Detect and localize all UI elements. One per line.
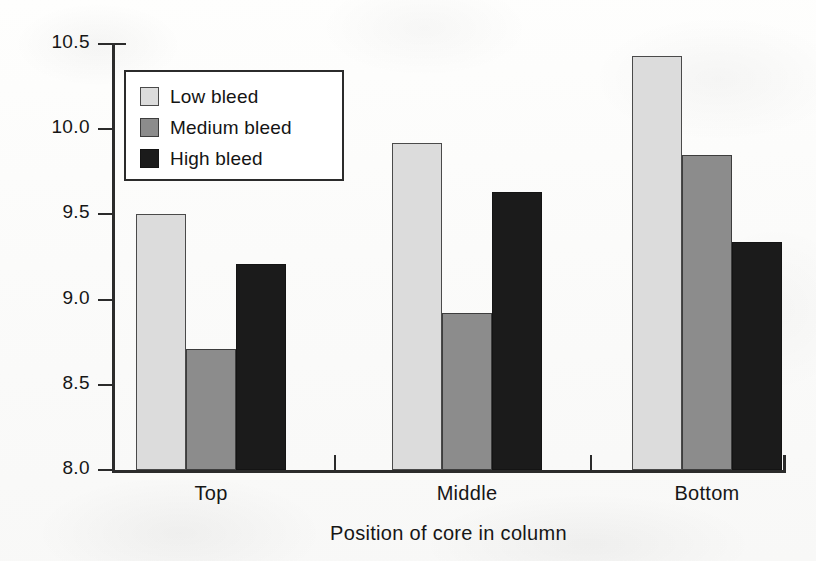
legend-swatch-low-bleed bbox=[140, 87, 159, 106]
bar-bottom-medium-bleed bbox=[682, 155, 732, 470]
legend-label-high-bleed: High bleed bbox=[170, 148, 263, 170]
bar-top-high-bleed bbox=[236, 264, 286, 470]
legend-swatch-high-bleed bbox=[140, 149, 159, 168]
bar-middle-medium-bleed bbox=[442, 313, 492, 470]
x-axis-label-middle: Middle bbox=[387, 482, 547, 505]
legend-label-low-bleed: Low bleed bbox=[170, 86, 258, 108]
bar-top-medium-bleed bbox=[186, 349, 236, 470]
legend-swatch-medium-bleed bbox=[140, 118, 159, 137]
y-axis-tick-label: 8.0 bbox=[36, 457, 90, 479]
chart-legend: Low bleed Medium bleed High bleed bbox=[124, 70, 344, 181]
y-axis-tick bbox=[98, 384, 113, 386]
y-axis-tick bbox=[98, 128, 113, 130]
bar-middle-high-bleed bbox=[492, 192, 542, 470]
y-axis-tick-label: 10.5 bbox=[36, 31, 90, 53]
y-axis-tick bbox=[98, 469, 113, 471]
y-axis-tick bbox=[98, 213, 113, 215]
bar-top-low-bleed bbox=[136, 214, 186, 470]
bar-bottom-low-bleed bbox=[632, 56, 682, 470]
legend-item-low-bleed: Low bleed bbox=[140, 81, 342, 112]
y-axis-tick-label: 9.5 bbox=[36, 201, 90, 223]
x-axis-line bbox=[112, 470, 785, 473]
bar-bottom-high-bleed bbox=[732, 242, 782, 470]
x-axis-label-top: Top bbox=[131, 482, 291, 505]
plot-wrapper: OPI (Log) 8.08.59.09.510.010.5 TopMiddle… bbox=[0, 0, 816, 561]
x-axis-label-bottom: Bottom bbox=[627, 482, 787, 505]
legend-label-medium-bleed: Medium bleed bbox=[170, 117, 292, 139]
y-axis-tick bbox=[98, 43, 113, 45]
y-axis-tick bbox=[98, 299, 113, 301]
x-axis-title: Position of core in column bbox=[112, 522, 785, 545]
chart-page: OPI (Log) 8.08.59.09.510.010.5 TopMiddle… bbox=[0, 0, 816, 561]
legend-item-high-bleed: High bleed bbox=[140, 143, 342, 174]
y-axis-tick-label: 8.5 bbox=[36, 372, 90, 394]
y-axis-tick-label: 9.0 bbox=[36, 287, 90, 309]
legend-item-medium-bleed: Medium bleed bbox=[140, 112, 342, 143]
bar-middle-low-bleed bbox=[392, 143, 442, 470]
y-axis-tick-label: 10.0 bbox=[36, 116, 90, 138]
